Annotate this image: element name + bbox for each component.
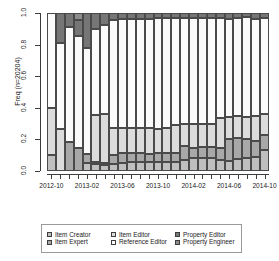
bar-segment (243, 117, 250, 138)
y-axis-line (40, 13, 41, 171)
bar-column (180, 13, 189, 171)
bar-segment (75, 20, 82, 36)
bar-column (56, 13, 65, 171)
bar-segment (48, 13, 55, 108)
bar-segment (75, 13, 82, 20)
bar-segment (92, 164, 99, 171)
bar-column (145, 13, 154, 171)
bar-segment (163, 18, 170, 129)
stacked-bar-series (47, 13, 269, 171)
x-axis-tick (202, 175, 203, 179)
bar-column (242, 13, 251, 171)
bar-segment (234, 18, 241, 117)
bar-segment (146, 128, 153, 154)
bar-segment (57, 13, 64, 43)
bar-column (127, 13, 136, 171)
bar-segment (217, 160, 224, 171)
bar-segment (172, 125, 179, 153)
legend-swatch-icon (47, 240, 52, 245)
bar-column (260, 13, 269, 171)
legend-label: Property Engineer (183, 239, 235, 245)
x-axis-tick (185, 175, 186, 179)
bar-segment (146, 154, 153, 162)
legend-item[interactable]: Item Expert (47, 239, 109, 245)
bar-segment (92, 29, 99, 115)
bar-segment (217, 148, 224, 160)
legend-label: Reference Editor (119, 239, 167, 245)
bar-segment (234, 138, 241, 159)
bar-segment (172, 162, 179, 171)
bar-segment (137, 162, 144, 171)
bar-segment (146, 19, 153, 128)
x-axis-tick (256, 175, 257, 179)
bar-column (251, 13, 260, 171)
bar-segment (92, 13, 99, 29)
legend-item[interactable]: Property Engineer (175, 239, 237, 245)
bar-segment (261, 18, 268, 114)
legend-swatch-icon (111, 240, 116, 245)
bar-segment (84, 48, 91, 154)
bar-segment (217, 18, 224, 118)
bar-segment (128, 128, 135, 152)
x-axis-tick (122, 175, 123, 179)
bar-column (74, 13, 83, 171)
bar-segment (155, 18, 162, 129)
bar-segment (110, 164, 117, 171)
bar-segment (137, 19, 144, 127)
x-axis-tick-label: 2013-06 (110, 182, 134, 189)
x-axis-tick (96, 175, 97, 179)
y-axis-tick-label: 1.0 (20, 2, 27, 24)
x-axis-tick (229, 175, 230, 179)
bar-segment (146, 162, 153, 171)
bar-segment (57, 129, 64, 171)
bar-segment (119, 163, 126, 171)
bar-segment (163, 128, 170, 152)
bar-segment (119, 153, 126, 163)
x-axis-tick (105, 175, 106, 179)
bar-segment (84, 163, 91, 171)
bar-segment (84, 154, 91, 163)
bar-segment (137, 128, 144, 153)
bar-segment (243, 17, 250, 117)
x-axis-tick (220, 175, 221, 179)
bar-column (171, 13, 180, 171)
bar-column (216, 13, 225, 171)
bar-segment (155, 129, 162, 153)
legend-item[interactable]: Reference Editor (111, 239, 173, 245)
bar-segment (208, 124, 215, 147)
bar-segment (208, 158, 215, 171)
bar-segment (110, 128, 117, 156)
bar-segment (261, 114, 268, 135)
bar-segment (75, 148, 82, 171)
bar-column (198, 13, 207, 171)
bar-segment (234, 159, 241, 171)
bar-column (136, 13, 145, 171)
bar-segment (163, 162, 170, 171)
x-axis-tick (69, 175, 70, 179)
x-axis-tick (238, 175, 239, 179)
bar-segment (252, 116, 259, 140)
bar-segment (181, 160, 188, 171)
x-axis-tick-label: 2014-10 (252, 182, 276, 189)
x-axis-tick (149, 175, 150, 179)
bar-column (233, 13, 242, 171)
x-axis-tick (211, 175, 212, 179)
bar-segment (57, 43, 64, 129)
bar-segment (190, 158, 197, 171)
bar-segment (128, 162, 135, 171)
bar-segment (243, 158, 250, 171)
bar-segment (84, 13, 91, 48)
bar-segment (75, 36, 82, 148)
bar-segment (155, 153, 162, 162)
y-axis-tick (35, 171, 40, 172)
x-axis-tick (265, 175, 266, 179)
bar-segment (110, 13, 117, 20)
bar-column (83, 13, 92, 171)
y-axis-tick-label: 0.8 (20, 33, 27, 55)
y-axis-tick-labels: 0.00.20.40.60.81.0 (8, 0, 34, 261)
bar-segment (48, 155, 55, 171)
bar-segment (243, 139, 250, 158)
bar-segment (190, 148, 197, 157)
x-axis-tick-label: 2012-10 (39, 182, 63, 189)
bar-segment (172, 18, 179, 125)
